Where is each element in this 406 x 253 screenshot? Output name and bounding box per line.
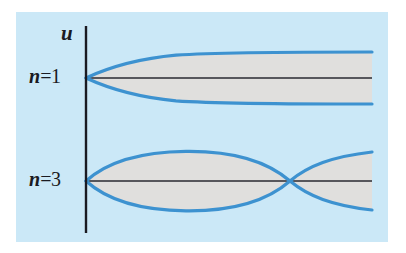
mode-label-n1-number: 1 — [51, 65, 61, 87]
mode-label-n3: n=3 — [29, 169, 61, 189]
mode-label-n1-equals: = — [40, 65, 51, 87]
mode-label-n1: n=1 — [29, 66, 61, 86]
figure-container: u n=1 n=3 — [0, 0, 406, 253]
mode-label-n3-equals: = — [40, 168, 51, 190]
mode-label-n3-number: 3 — [51, 168, 61, 190]
axis-label-u: u — [61, 23, 73, 44]
mode-label-n3-variable: n — [29, 168, 40, 190]
mode-label-n1-variable: n — [29, 65, 40, 87]
